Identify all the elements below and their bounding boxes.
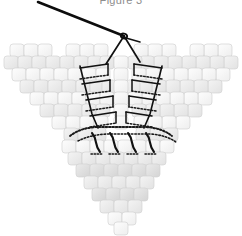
bead (38, 44, 52, 57)
bead (174, 104, 188, 117)
bead (4, 56, 18, 69)
bead (196, 56, 210, 69)
bead (100, 200, 114, 213)
bead (68, 152, 82, 165)
bead (30, 92, 44, 105)
bead (210, 56, 224, 69)
bead (76, 80, 90, 93)
bead (140, 176, 154, 189)
figure-canvas: Figure 3 (0, 0, 242, 236)
bead (114, 56, 128, 69)
bead (160, 104, 174, 117)
beading-needle (38, 2, 140, 42)
bead (80, 44, 94, 57)
bead (104, 164, 118, 177)
bead (40, 104, 54, 117)
bead (114, 80, 128, 93)
bead (224, 56, 238, 69)
bead (174, 68, 188, 81)
bead (32, 56, 46, 69)
bead (34, 80, 48, 93)
bead (40, 68, 54, 81)
bead (134, 188, 148, 201)
bead (26, 68, 40, 81)
bead (72, 92, 86, 105)
bead (44, 92, 58, 105)
bead (128, 92, 142, 105)
bead (54, 104, 68, 117)
bead (128, 200, 142, 213)
bead (202, 68, 216, 81)
needle-point (38, 2, 64, 12)
bead (118, 164, 132, 177)
bead (52, 116, 66, 129)
bead (152, 80, 166, 93)
bead (90, 164, 104, 177)
bead (20, 80, 34, 93)
bead (66, 44, 80, 57)
bead (94, 44, 108, 57)
bead (198, 92, 212, 105)
bead (194, 80, 208, 93)
bead (62, 140, 76, 153)
bead (132, 164, 146, 177)
bead (84, 176, 98, 189)
bead (92, 188, 106, 201)
bead (114, 222, 128, 235)
bead (188, 68, 202, 81)
bead (10, 44, 24, 57)
bead (156, 92, 170, 105)
bead (76, 140, 90, 153)
bead (114, 92, 128, 105)
bead (148, 44, 162, 57)
bead (112, 176, 126, 189)
bead (60, 56, 74, 69)
bead (68, 104, 82, 117)
bead (54, 68, 68, 81)
bead (106, 188, 120, 201)
bead (184, 92, 198, 105)
bead (166, 80, 180, 93)
bead (48, 80, 62, 93)
bead (118, 140, 132, 153)
bead (24, 44, 38, 57)
bead (168, 56, 182, 69)
bead (120, 188, 134, 201)
bead (182, 56, 196, 69)
bead (114, 68, 128, 81)
bead (190, 44, 204, 57)
bead (114, 200, 128, 213)
bead (160, 140, 174, 153)
bead (98, 176, 112, 189)
bead (126, 176, 140, 189)
bead (18, 56, 32, 69)
bead (176, 116, 190, 129)
bead (218, 44, 232, 57)
butterfly-beading-diagram (0, 0, 242, 236)
bead (62, 80, 76, 93)
bead (162, 116, 176, 129)
bead (100, 92, 114, 105)
bead (46, 56, 60, 69)
bead (208, 80, 222, 93)
bead (76, 164, 90, 177)
bead (216, 68, 230, 81)
bead (180, 80, 194, 93)
bead (12, 68, 26, 81)
bead (204, 44, 218, 57)
bead (146, 164, 160, 177)
bead (188, 104, 202, 117)
bead (170, 92, 184, 105)
bead (162, 44, 176, 57)
bead (66, 116, 80, 129)
bead (58, 92, 72, 105)
